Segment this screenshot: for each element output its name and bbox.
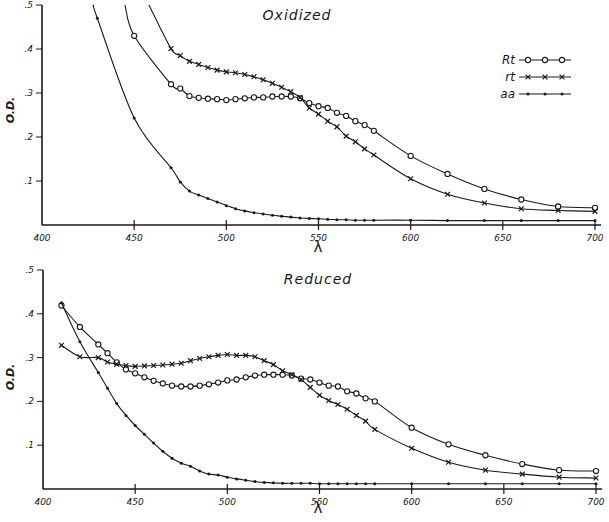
circle-marker [188,384,193,389]
circle-marker [225,378,230,383]
dot-marker [281,482,284,485]
x-tick-label: 400 [34,497,51,507]
dot-marker [557,219,560,222]
circle-marker [307,101,312,106]
panel-title: Oxidized [263,7,332,23]
dot-marker [226,476,229,479]
cross-marker [307,106,312,111]
cross-marker [262,358,267,363]
series-rt [59,303,599,474]
series-line [93,5,595,221]
circle-marker [242,96,247,101]
cross-marker [326,398,331,403]
dot-marker [354,219,357,222]
circle-marker [196,95,201,100]
y-tick-label: .3 [24,88,33,98]
cross-marker [59,343,64,348]
dot-marker [235,477,238,480]
cross-marker [362,146,367,151]
circle-marker [326,383,331,388]
circle-marker [168,82,173,87]
circle-marker [334,110,339,115]
dot-marker [318,482,321,485]
circle-marker [243,375,248,380]
cross-marker [178,53,183,58]
circle-marker [206,382,211,387]
circle-marker [160,381,165,386]
legend-marker [527,93,530,96]
legend: Rtrtaa [500,53,571,101]
series-rt [125,5,598,210]
circle-marker [132,33,137,38]
panel-title: Reduced [284,271,352,287]
dot-marker [446,219,449,222]
dot-marker [595,482,598,485]
circle-marker [251,95,256,100]
y-axis-title: O.D. [4,97,17,124]
circle-marker [345,389,350,394]
circle-marker [362,123,367,128]
x-tick-label: 450 [126,233,143,243]
y-tick-label: .4 [25,309,34,319]
cross-marker [325,119,330,124]
dot-marker [483,219,486,222]
cross-marker [363,419,368,424]
circle-marker [316,104,321,109]
circle-marker [325,105,330,110]
circle-marker [354,391,359,396]
circle-marker [133,371,138,376]
dot-marker [60,301,63,304]
dot-marker [253,480,256,483]
cross-marker [169,46,174,51]
cross-marker [270,81,275,86]
dot-marker [327,482,330,485]
dot-marker [409,219,412,222]
circle-marker [335,384,340,389]
dot-marker [78,340,81,343]
dot-marker [161,450,164,453]
x-tick-label: 600 [403,497,420,507]
dot-marker [152,442,155,445]
dot-marker [263,481,266,484]
x-tick-label: 700 [587,497,604,507]
dot-marker [521,482,524,485]
legend-marker [525,57,530,62]
reduced-panel: .1.2.3.4.5400450500550600650700ReducedλO… [4,265,605,517]
series-line [125,5,595,208]
series-rt [149,5,598,214]
series-rt [59,343,598,481]
x-tick-label: 500 [219,497,236,507]
circle-marker [77,324,82,329]
y-tick-label: .5 [24,0,33,10]
dot-marker [243,209,246,212]
cross-marker [372,427,377,432]
dot-marker [234,207,237,210]
cross-marker [354,413,359,418]
dot-marker [189,465,192,468]
dot-marker [170,166,173,169]
x-tick-label: 600 [402,233,419,243]
circle-marker [216,380,221,385]
x-tick-label: 650 [494,233,511,243]
dot-marker [97,371,100,374]
circle-marker [142,375,147,380]
circle-marker [520,461,525,466]
legend-marker [561,93,564,96]
x-tick-label: 700 [586,233,603,243]
circle-marker [308,377,313,382]
dot-marker [262,213,265,216]
dot-marker [96,17,99,20]
legend-marker [544,93,547,96]
circle-marker [371,128,376,133]
circle-marker [151,378,156,383]
circle-marker [344,113,349,118]
y-tick-label: .3 [25,353,34,363]
circle-marker [169,383,174,388]
circle-marker [261,95,266,100]
cross-marker [408,176,413,181]
legend-marker [559,57,564,62]
legend-label: Rt [502,53,516,67]
dot-marker [179,180,182,183]
circle-marker [96,342,101,347]
circle-marker [187,93,192,98]
